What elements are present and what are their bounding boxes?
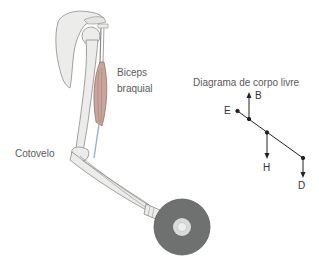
arm-illustration — [0, 0, 319, 265]
force-h-label: H — [263, 162, 270, 173]
forearm — [70, 152, 152, 212]
free-body-diagram — [236, 92, 306, 178]
elbow-label: Cotovelo — [15, 148, 54, 160]
pivot-point-e — [236, 109, 239, 112]
force-d-label: D — [298, 180, 305, 191]
biceps-label-line1: Biceps — [117, 67, 147, 79]
biceps-muscle — [94, 62, 107, 126]
biceps-lever-figure: Biceps braquial Cotovelo Diagrama de cor… — [0, 0, 319, 265]
biceps-lower-tendon — [94, 124, 99, 158]
biceps-label-line2: braquial — [117, 83, 153, 95]
point-e-label: E — [224, 105, 231, 116]
weight-plate — [154, 199, 210, 255]
biceps-upper-tendon — [100, 26, 101, 64]
force-b-label: B — [255, 90, 262, 101]
fbd-title: Diagrama de corpo livre — [193, 77, 299, 89]
